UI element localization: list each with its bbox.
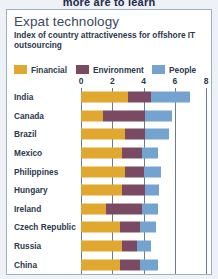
category-label-russia: Russia [14,241,41,251]
bar-segment-environment [122,148,142,159]
x-axis-tick-labels: 02468 [7,76,212,88]
bar-segment-people [145,185,159,196]
bar-row: Brazil [7,125,212,144]
bar-segment-people [142,203,158,214]
legend-item-environment: Environment [76,64,144,75]
stacked-bar [81,241,151,252]
bar-segment-environment [125,129,145,140]
bar-segment-people [151,92,190,103]
bar-row: Ireland [7,200,212,219]
x-tick-label-6: 6 [172,76,177,86]
category-label-canada: Canada [14,111,44,121]
legend-swatch-financial [14,65,27,74]
chart-plot-area: 02468 IndiaCanadaBrazilMexicoPhilippines… [7,76,212,274]
bar-segment-financial [81,222,120,233]
bar-row: Canada [7,107,212,126]
category-label-hungary: Hungary [14,185,48,195]
category-label-india: India [14,92,33,102]
bar-segment-financial [81,166,125,177]
chart-card: Expat technology Index of country attrac… [6,9,212,275]
bar-segment-environment [128,92,151,103]
legend-label-people: People [169,65,196,75]
bar-segment-environment [120,259,140,270]
bar-segment-people [140,259,157,270]
bar-segment-financial [81,148,122,159]
stacked-bar [81,222,156,233]
clipped-headline-text: more are to learn [0,0,218,8]
bar-row: Russia [7,237,212,256]
bar-segment-financial [81,203,106,214]
bar-row: Hungary [7,181,212,200]
bar-segment-financial [81,110,103,121]
category-label-czech-republic: Czech Republic [14,222,76,232]
legend-swatch-people [152,65,165,74]
bar-segment-financial [81,259,120,270]
chart-legend: Financial Environment People [14,64,206,75]
bar-segment-environment [103,110,145,121]
stacked-bar [81,129,169,140]
bar-segment-financial [81,129,125,140]
bar-segment-environment [125,166,144,177]
category-label-philippines: Philippines [14,167,58,177]
bar-segment-people [144,166,161,177]
x-tick-label-0: 0 [79,76,84,86]
bar-segment-people [145,129,168,140]
stacked-bar [81,92,190,103]
bar-row: Czech Republic [7,218,212,237]
category-label-mexico: Mexico [14,148,42,158]
bar-segment-people [140,222,156,233]
stacked-bar [81,148,158,159]
x-tick-label-4: 4 [141,76,146,86]
stacked-bar [81,203,158,214]
category-label-brazil: Brazil [14,129,37,139]
bar-row: India [7,88,212,107]
bar-row: China [7,255,212,274]
bar-segment-environment [122,185,145,196]
stacked-bar [81,110,172,121]
bar-row: Mexico [7,144,212,163]
bar-segment-environment [120,222,140,233]
category-label-china: China [14,260,37,270]
stacked-bar [81,166,161,177]
chart-title: Expat technology [14,14,211,29]
bar-rows: IndiaCanadaBrazilMexicoPhilippinesHungar… [7,88,212,274]
bar-segment-financial [81,185,122,196]
bar-segment-financial [81,241,122,252]
legend-swatch-environment [76,65,89,74]
legend-item-people: People [152,64,196,75]
bar-segment-people [142,148,158,159]
stacked-bar [81,185,159,196]
legend-label-environment: Environment [93,65,144,75]
bar-segment-people [145,110,172,121]
bar-segment-financial [81,92,128,103]
x-tick-label-2: 2 [110,76,115,86]
bar-row: Philippines [7,162,212,181]
legend-item-financial: Financial [14,64,67,75]
stacked-bar [81,259,158,270]
legend-label-financial: Financial [31,65,67,75]
x-tick-label-8: 8 [204,76,209,86]
bar-segment-environment [106,203,142,214]
bar-segment-people [137,241,151,252]
bar-segment-environment [122,241,138,252]
category-label-ireland: Ireland [14,204,41,214]
chart-subtitle: Index of country attractiveness for offs… [14,31,204,50]
